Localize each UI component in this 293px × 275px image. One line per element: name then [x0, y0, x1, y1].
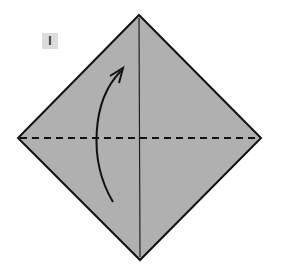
origami-diagram — [0, 0, 293, 275]
